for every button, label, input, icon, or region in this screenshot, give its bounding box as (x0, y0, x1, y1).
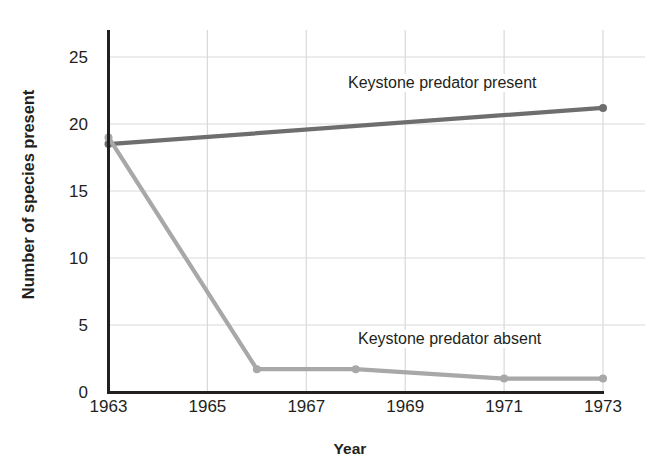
y-tick-label-25: 25 (36, 49, 96, 66)
series-annotation-keystone-predator-absent: Keystone predator absent (355, 330, 544, 348)
data-point (352, 365, 360, 373)
x-axis-title: Year (95, 440, 605, 458)
x-tick-label-1973: 1973 (563, 398, 643, 415)
data-point (500, 375, 508, 383)
series-annotation-keystone-predator-present: Keystone predator present (345, 74, 540, 92)
chart-container: Number of species present 0 5 10 15 20 2… (0, 0, 650, 469)
series-line-0 (109, 108, 604, 144)
x-tick-label-1965: 1965 (167, 398, 247, 415)
x-tick-label-1971: 1971 (464, 398, 544, 415)
data-point (599, 104, 607, 112)
y-tick-label-15: 15 (36, 183, 96, 200)
y-tick-label-5: 5 (36, 317, 96, 334)
y-tick-label-10: 10 (36, 250, 96, 267)
y-axis-line (107, 30, 110, 394)
x-tick-label-1963: 1963 (69, 398, 149, 415)
y-tick-label-20: 20 (36, 116, 96, 133)
x-axis-line (107, 391, 604, 394)
data-point (253, 365, 261, 373)
x-tick-label-1969: 1969 (365, 398, 445, 415)
x-tick-label-1967: 1967 (266, 398, 346, 415)
data-point (599, 375, 607, 383)
